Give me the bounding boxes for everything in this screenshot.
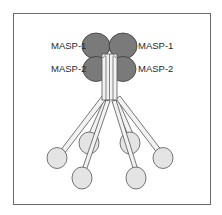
- label-masp1-right: MASP-1: [138, 40, 173, 51]
- diagram-canvas: MASP-1 MASP-1 MASP-2 MASP-2: [0, 0, 222, 215]
- carbohydrate-recognition-head: [153, 148, 173, 169]
- carbohydrate-recognition-head: [47, 148, 67, 169]
- carbohydrate-recognition-head: [72, 167, 92, 189]
- label-masp2-left: MASP-2: [51, 63, 86, 74]
- central-collagen-bundle: [102, 50, 117, 100]
- label-masp2-right: MASP-2: [138, 63, 173, 74]
- carbohydrate-recognition-head: [126, 167, 146, 189]
- mbl-masp-diagram: MASP-1 MASP-1 MASP-2 MASP-2: [0, 0, 222, 215]
- label-masp1-left: MASP-1: [51, 40, 86, 51]
